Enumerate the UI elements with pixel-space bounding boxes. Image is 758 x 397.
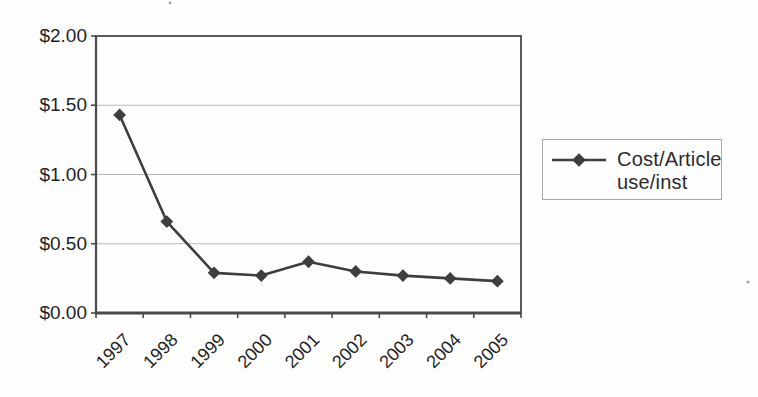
x-label-2003: 2003	[375, 330, 417, 372]
legend-label-line2: use/inst	[617, 171, 722, 194]
chart-figure: $0.00$0.50$1.00$1.50$2.00199719981999200…	[0, 0, 758, 397]
x-label-2004: 2004	[423, 330, 465, 372]
x-label-2000: 2000	[234, 330, 276, 372]
x-label-2001: 2001	[281, 330, 323, 372]
data-point-2003	[397, 269, 410, 282]
x-label-1997: 1997	[92, 330, 134, 372]
data-point-2000	[255, 269, 268, 282]
scan-artifact-dot-right	[746, 280, 749, 283]
x-label-1999: 1999	[186, 330, 228, 372]
legend-diamond-icon	[572, 153, 586, 167]
y-tick-label-$0.50: $0.50	[39, 233, 87, 254]
legend-series-marker-icon	[548, 149, 610, 171]
x-label-2002: 2002	[328, 330, 370, 372]
x-label-1998: 1998	[139, 330, 181, 372]
y-tick-label-$2.00: $2.00	[39, 25, 87, 46]
data-point-2001	[302, 255, 315, 268]
legend-label: Cost/Article use/inst	[617, 148, 722, 194]
y-tick-label-$1.50: $1.50	[39, 94, 87, 115]
data-point-2002	[349, 265, 362, 278]
y-tick-label-$1.00: $1.00	[39, 164, 87, 185]
legend-label-line1: Cost/Article	[617, 148, 722, 171]
y-tick-label-$0.00: $0.00	[39, 302, 87, 323]
x-label-2005: 2005	[470, 330, 512, 372]
data-point-2005	[491, 275, 504, 288]
legend: Cost/Article use/inst	[542, 139, 722, 200]
scan-artifact-dot-top	[169, 2, 172, 5]
data-point-2004	[444, 272, 457, 285]
data-point-1997	[113, 109, 126, 122]
